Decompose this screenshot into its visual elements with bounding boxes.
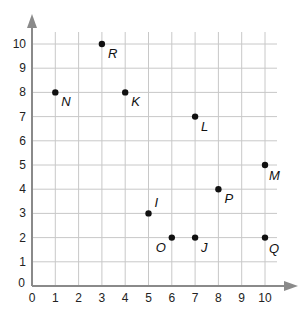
x-tick-label: 9 xyxy=(238,291,245,305)
x-tick-label: 0 xyxy=(29,291,36,305)
point-marker xyxy=(262,234,268,240)
grid-lines xyxy=(32,32,277,286)
y-tick-label: 8 xyxy=(19,85,26,99)
point-label: M xyxy=(269,168,280,183)
y-tick-label: 6 xyxy=(19,134,26,148)
y-axis-arrow-icon xyxy=(27,14,37,28)
point-marker xyxy=(52,89,58,95)
point-marker xyxy=(215,186,221,192)
point-label: I xyxy=(155,195,159,210)
x-tick-label: 10 xyxy=(258,291,272,305)
point-marker xyxy=(262,162,268,168)
point-label: K xyxy=(131,94,141,109)
y-tick-label: 2 xyxy=(19,231,26,245)
tick-labels: 012345678910123456789100 xyxy=(13,37,272,305)
x-tick-label: 8 xyxy=(215,291,222,305)
x-tick-label: 1 xyxy=(52,291,59,305)
point-marker xyxy=(145,210,151,216)
y-tick-label: 10 xyxy=(13,37,27,51)
point-label: J xyxy=(200,240,208,255)
x-tick-label: 2 xyxy=(75,291,82,305)
point-label: Q xyxy=(269,241,279,256)
y-tick-label: 5 xyxy=(19,158,26,172)
point-marker xyxy=(169,234,175,240)
point-marker xyxy=(122,89,128,95)
y-tick-label: 4 xyxy=(19,182,26,196)
point-label: R xyxy=(108,46,117,61)
point-marker xyxy=(192,234,198,240)
y-tick-label: 7 xyxy=(19,110,26,124)
x-tick-label: 3 xyxy=(99,291,106,305)
y-tick-label: 3 xyxy=(19,206,26,220)
coordinate-grid-chart: 012345678910123456789100 RNKLMPIOJQ xyxy=(0,0,306,322)
point-marker xyxy=(192,113,198,119)
x-tick-label: 7 xyxy=(192,291,199,305)
y-tick-label: 1 xyxy=(19,255,26,269)
y-tick-label: 9 xyxy=(19,61,26,75)
point-marker xyxy=(99,41,105,47)
x-tick-label: 5 xyxy=(145,291,152,305)
point-label: O xyxy=(156,240,166,255)
point-label: L xyxy=(201,119,208,134)
plotted-points: RNKLMPIOJQ xyxy=(52,41,280,256)
point-label: N xyxy=(61,94,71,109)
y-tick-label: 0 xyxy=(18,276,25,290)
x-tick-label: 6 xyxy=(168,291,175,305)
point-label: P xyxy=(224,191,233,206)
x-axis-arrow-icon xyxy=(284,281,298,291)
x-tick-label: 4 xyxy=(122,291,129,305)
